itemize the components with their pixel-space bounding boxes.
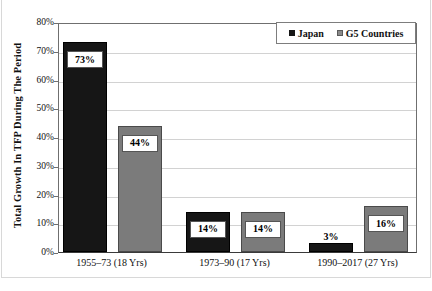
- bar-japan-0[interactable]: [63, 42, 107, 252]
- legend-label-japan: Japan: [298, 28, 324, 39]
- y-axis-title: Total Growth In TFP During The Period: [12, 21, 23, 251]
- y-axis-tick-label: 40%: [22, 133, 54, 143]
- data-label-japan-1: 14%: [190, 221, 226, 238]
- y-axis-tick-label: 30%: [22, 162, 54, 172]
- gridline: [59, 53, 416, 54]
- data-label-g5-2: 16%: [368, 215, 404, 232]
- bar-japan-2[interactable]: [309, 243, 353, 252]
- x-axis-tick-label: 1973–90 (17 Yrs): [165, 258, 305, 268]
- gridline: [59, 225, 416, 226]
- chart-legend: Japan G5 Countries: [276, 22, 416, 44]
- data-label-japan-0: 73%: [67, 51, 103, 68]
- y-axis-tick-label: 0%: [22, 248, 54, 258]
- legend-label-g5: G5 Countries: [346, 28, 404, 39]
- gridline: [59, 110, 416, 111]
- data-label-japan-2: 3%: [313, 229, 349, 244]
- data-label-g5-0: 44%: [122, 135, 158, 152]
- chart-figure: Total Growth In TFP During The Period 80…: [0, 0, 432, 291]
- gridline: [59, 168, 416, 169]
- gridline: [59, 197, 416, 198]
- gridline: [59, 82, 416, 83]
- data-label-g5-1: 14%: [245, 221, 281, 238]
- y-axis-tick-label: 10%: [22, 219, 54, 229]
- legend-entry-g5[interactable]: G5 Countries: [337, 28, 404, 39]
- plot-area: 73%14%3%44%14%16%: [58, 23, 417, 253]
- y-axis-tick-label: 50%: [22, 104, 54, 114]
- gridline: [59, 139, 416, 140]
- x-axis-tick-label: 1990–2017 (27 Yrs): [288, 258, 428, 268]
- y-axis-tick-label: 60%: [22, 76, 54, 86]
- x-axis-tick-label: 1955–73 (18 Yrs): [42, 258, 182, 268]
- japan-swatch-icon: [289, 30, 295, 36]
- y-axis-tick-label: 70%: [22, 47, 54, 57]
- legend-entry-japan[interactable]: Japan: [289, 28, 324, 39]
- y-axis-tick-label: 80%: [22, 18, 54, 28]
- y-axis-tick-mark: [54, 253, 58, 254]
- y-axis-tick-label: 20%: [22, 191, 54, 201]
- g5-swatch-icon: [337, 30, 343, 36]
